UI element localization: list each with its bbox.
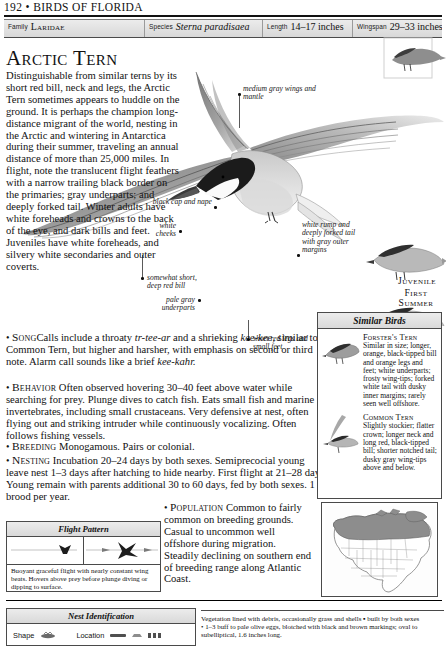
spec-cell-length: Length 14–17 inches bbox=[263, 20, 353, 37]
section-heading-breeding: Breeding bbox=[12, 440, 56, 452]
plate-label-juvenile-text: Juvenile bbox=[398, 275, 436, 286]
section-breeding: • Breeding Monogamous. Pairs or colonial… bbox=[6, 441, 328, 453]
running-head-rule bbox=[4, 15, 442, 17]
nest-description: Vegetation lined with debris, occasional… bbox=[201, 615, 444, 639]
page-number: 192 bbox=[4, 1, 22, 13]
similar-birds-title: Similar Birds bbox=[318, 313, 441, 329]
north-america-range-map bbox=[325, 506, 436, 595]
section-heading-behavior: Behavior bbox=[12, 381, 56, 393]
section-nesting: • Nesting Incubation 20–24 days by both … bbox=[6, 455, 328, 503]
section-song-t1: tr-tee-ar bbox=[135, 332, 171, 343]
page-title: Arctic Tern bbox=[6, 46, 117, 71]
similar-bird-desc-common: Slightly stockier; flatter crown; longer… bbox=[363, 422, 437, 472]
section-song: • SongCalls include a throaty tr-tee-ar … bbox=[6, 332, 328, 368]
inset-standing-tern bbox=[392, 48, 446, 71]
flight-figure-hover bbox=[7, 537, 84, 564]
flight-pattern-figures bbox=[7, 537, 160, 565]
spec-value-wingspan: 29–33 inches bbox=[390, 21, 442, 32]
section-heading-population: Population bbox=[170, 501, 223, 513]
annotation-medium-gray-wings: medium gray wings and mantle bbox=[243, 85, 327, 102]
spec-label-family: Family bbox=[8, 23, 28, 30]
spec-label-wingspan: Wingspan bbox=[357, 23, 387, 30]
annotation-short-deep-red-bill: somewhat short, deep red bill bbox=[147, 274, 205, 291]
spec-value-length: 14–17 inches bbox=[290, 21, 343, 32]
nest-shape-label: Shape bbox=[13, 631, 34, 640]
common-tern-icon bbox=[322, 413, 360, 457]
spec-cell-family: Family Laridae bbox=[4, 20, 145, 37]
section-heading-nesting: Nesting bbox=[12, 454, 50, 466]
book-title: BIRDS OF FLORIDA bbox=[33, 1, 143, 13]
similar-bird-desc-forsters: Similar in size; longer, orange, black-t… bbox=[363, 342, 437, 408]
nest-location-icons bbox=[110, 631, 168, 639]
plate-label-first-summer-text: First Summer bbox=[399, 287, 434, 308]
spec-value-species: Sterna paradisaea bbox=[176, 21, 250, 32]
plate-label-juvenile: Juvenile bbox=[388, 276, 446, 286]
nest-identification-title: Nest Identification bbox=[7, 609, 195, 624]
annotation-dot-white-rump bbox=[297, 254, 300, 257]
annotation-dot-pale-gray bbox=[198, 299, 201, 302]
section-breeding-text: Monogamous. Pairs or colonial. bbox=[59, 441, 195, 452]
nest-description-rule bbox=[201, 610, 444, 611]
section-behavior: • Behavior Often observed hovering 30–40… bbox=[6, 382, 328, 442]
similar-birds-box: Similar Birds Forster's Tern Similar in … bbox=[317, 312, 442, 499]
nest-identification-row: Shape Location bbox=[7, 624, 195, 646]
section-song-t3: kee-kee, bbox=[240, 332, 274, 343]
section-population: • Population Common to fairly common on … bbox=[164, 502, 312, 585]
similar-bird-entry-forsters: Forster's Tern Similar in size; longer, … bbox=[322, 333, 437, 408]
nest-description-line-1: Vegetation lined with debris, occasional… bbox=[201, 615, 444, 623]
running-head-separator: • bbox=[26, 1, 30, 13]
spec-value-family: Laridae bbox=[31, 21, 65, 32]
annotation-pale-gray-underparts: pale gray underparts bbox=[139, 296, 195, 313]
similar-birds-content: Forster's Tern Similar in size; longer, … bbox=[318, 329, 441, 499]
section-population-text: Common to fairly common on breeding grou… bbox=[164, 502, 311, 584]
section-heading-song: Song bbox=[12, 331, 36, 343]
running-head: 192 • BIRDS OF FLORIDA bbox=[4, 1, 442, 13]
flight-pattern-box: Flight Pattern Buoyant graceful flight w… bbox=[6, 521, 161, 592]
annotation-dot-red-bill bbox=[141, 277, 144, 280]
section-nesting-text: Incubation 20–24 days by both sexes. Sem… bbox=[6, 455, 327, 502]
spec-label-species: Species bbox=[149, 23, 173, 30]
nest-location-label: Location bbox=[76, 631, 104, 640]
nest-description-line-3: subelliptical, 1.6 inches long. bbox=[201, 631, 444, 639]
gliding-bird-icon bbox=[84, 537, 160, 563]
annotation-dot-black-cap bbox=[214, 206, 217, 209]
flight-pattern-caption: Buoyant graceful flight with nearly cons… bbox=[7, 565, 160, 593]
plate-label-first-summer: First Summer bbox=[386, 288, 446, 308]
species-description-part1: Distinguishable from similar terns by it… bbox=[6, 70, 182, 272]
range-map-box bbox=[321, 502, 438, 597]
nest-identification-box: Nest Identification Shape Location bbox=[6, 608, 196, 646]
bottom-separator-rule bbox=[6, 600, 442, 601]
flight-figure-glide bbox=[84, 537, 160, 564]
annotation-leader-medium-gray-wings bbox=[239, 96, 240, 128]
section-song-t5: kee-kahr. bbox=[157, 356, 196, 367]
nest-shape-icon bbox=[40, 631, 56, 639]
section-song-t0: Calls include a throaty bbox=[36, 332, 134, 343]
field-guide-page: 192 • BIRDS OF FLORIDA Family Laridae Sp… bbox=[0, 0, 446, 648]
species-description-text: Distinguishable from similar terns by it… bbox=[6, 70, 179, 272]
nest-description-line-2: • 1–3 buff to pale olive eggs, blotched … bbox=[201, 623, 444, 631]
flight-pattern-title: Flight Pattern bbox=[7, 522, 160, 537]
annotation-white-rump-forked-tail: white rump and deeply forked tail with g… bbox=[302, 221, 370, 255]
spec-cell-species: Species Sterna paradisaea bbox=[145, 20, 263, 37]
forsters-tern-icon bbox=[322, 337, 360, 367]
spec-cell-wingspan: Wingspan 29–33 inches bbox=[353, 20, 442, 37]
hovering-bird-icon bbox=[7, 537, 83, 563]
similar-bird-entry-common: Common Tern Slightly stockier; flatter c… bbox=[322, 413, 437, 472]
section-song-t2: and a shrieking bbox=[170, 332, 240, 343]
spec-label-length: Length bbox=[267, 23, 287, 30]
